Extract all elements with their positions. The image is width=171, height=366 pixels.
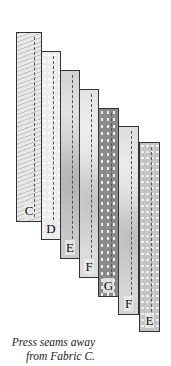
seam-line [91, 94, 92, 273]
caption-line-2: from Fabric C. [0, 349, 95, 363]
fabric-strip-f: F [79, 89, 99, 278]
fabric-strip-e: E [60, 70, 80, 259]
fabric-strip-c: C [16, 32, 42, 222]
fabric-strip-f: F [118, 126, 139, 315]
strip-label: D [42, 221, 60, 237]
fabric-strip-d: D [41, 51, 61, 240]
fabric-strip-e: E [139, 142, 160, 332]
caption-line-1: Press seams away [0, 335, 95, 349]
caption: Press seams away from Fabric C. [0, 335, 95, 363]
fabric-strip-g: G [98, 108, 119, 297]
strip-label: G [99, 278, 118, 294]
seam-line [72, 75, 73, 254]
strip-label: C [17, 203, 41, 219]
seam-line [53, 56, 54, 235]
seam-line [111, 113, 112, 292]
seam-line [34, 37, 35, 217]
strip-label: F [119, 296, 138, 312]
strip-label: E [140, 313, 159, 329]
seam-line [151, 147, 152, 327]
seam-line [131, 131, 132, 310]
strip-label: E [61, 240, 79, 256]
strip-label: F [80, 259, 98, 275]
